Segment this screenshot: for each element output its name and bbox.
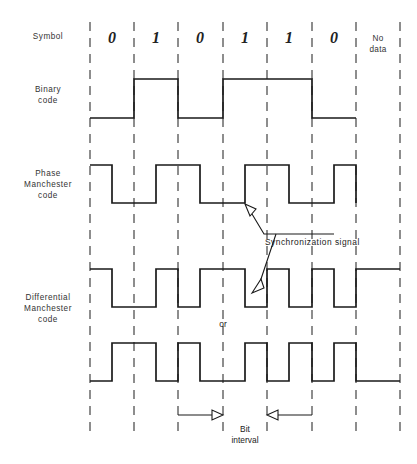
bit-interval-left-arrowhead (267, 410, 278, 420)
waveform-binary-code (90, 79, 356, 118)
bit-interval-label-line-0: Bit (240, 424, 250, 434)
no-data-line-1: data (369, 45, 386, 54)
row-label-symbol: Symbol (33, 32, 63, 41)
sync-leader-line (252, 214, 334, 234)
symbol-digit-3: 1 (241, 29, 249, 46)
row-label-diff-line-0: Differential (26, 293, 71, 302)
waveform-differential-manchester-variant-1 (90, 269, 400, 307)
row-label-differential-manchester-code: Differential Manchester code (24, 293, 72, 324)
or-label: or (219, 319, 227, 329)
row-label-diff-line-1: Manchester (24, 304, 72, 313)
row-label-phase-line-1: Manchester (24, 180, 72, 189)
no-data-line-0: No (372, 34, 383, 43)
row-label-binary-code: Binary code (35, 85, 62, 105)
line-code-diagram: Symbol 0 1 0 1 1 0 No data Binary code P… (0, 0, 417, 464)
waveform-differential-manchester-variant-2 (90, 343, 400, 381)
symbol-digit-0: 0 (108, 29, 116, 46)
row-label-binary-line-1: code (38, 96, 58, 105)
symbol-digit-5: 0 (330, 29, 338, 46)
row-label-phase-line-0: Phase (35, 169, 61, 178)
row-label-binary-line-0: Binary (35, 85, 62, 94)
sync-arrowhead-2 (252, 279, 264, 293)
bit-interval-right-arrowhead (212, 410, 223, 420)
row-label-diff-line-2: code (38, 315, 58, 324)
synchronization-signal-annotation: Synchronization signal (245, 204, 360, 247)
sync-arrowhead (245, 204, 256, 216)
bit-interval-measure: Bit interval (178, 410, 312, 445)
symbol-digit-1: 1 (152, 29, 160, 46)
row-label-phase-manchester-code: Phase Manchester code (24, 169, 72, 200)
row-label-phase-line-2: code (38, 191, 58, 200)
bit-interval-label-line-1: interval (232, 435, 259, 445)
synchronization-signal-label: Synchronization signal (265, 237, 360, 247)
no-data-label: No data (369, 34, 386, 54)
waveform-figure: Symbol 0 1 0 1 1 0 No data Binary code P… (0, 0, 417, 464)
row-label-symbol-line-0: Symbol (33, 32, 63, 41)
symbol-digit-2: 0 (196, 29, 204, 46)
symbol-digit-4: 1 (285, 29, 293, 46)
